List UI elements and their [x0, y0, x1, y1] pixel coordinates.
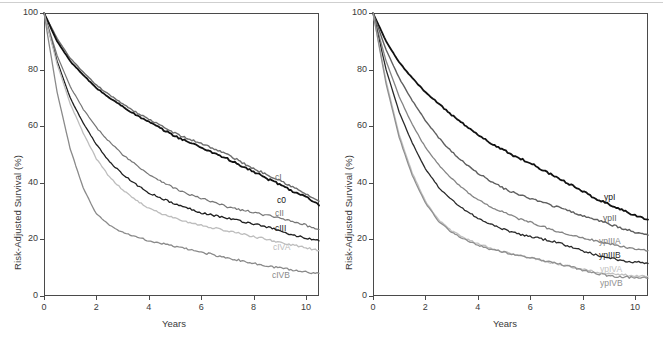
curve-label-cIII: cIII [275, 224, 286, 233]
survival-curve-cIII [44, 13, 319, 241]
y-tick-label: 100 [339, 7, 367, 17]
curve-label-ypIIIB: ypIIIB [599, 251, 621, 260]
x-tick-mark [201, 296, 202, 300]
x-tick-label: 0 [30, 302, 58, 312]
y-tick-mark [40, 70, 44, 71]
x-tick-label: 10 [292, 302, 320, 312]
survival-curve-ypIIIB [373, 13, 648, 263]
y-tick-mark [40, 239, 44, 240]
y-tick-label: 100 [10, 7, 38, 17]
y-tick-mark [40, 126, 44, 127]
y-tick-label: 80 [10, 64, 38, 74]
y-tick-label: 20 [339, 233, 367, 243]
x-tick-mark [373, 296, 374, 300]
x-tick-label: 6 [187, 302, 215, 312]
x-tick-label: 4 [464, 302, 492, 312]
x-tick-label: 8 [569, 302, 597, 312]
x-tick-label: 8 [240, 302, 268, 312]
x-tick-mark [478, 296, 479, 300]
y-tick-label: 0 [10, 290, 38, 300]
x-tick-label: 6 [516, 302, 544, 312]
y-tick-mark [369, 70, 373, 71]
y-tick-label: 20 [10, 233, 38, 243]
curve-label-ypI: ypI [604, 193, 615, 202]
x-tick-mark [254, 296, 255, 300]
survival-curve-cIVB [44, 13, 319, 274]
y-tick-mark [369, 183, 373, 184]
y-tick-mark [40, 183, 44, 184]
y-tick-label: 60 [339, 120, 367, 130]
x-tick-mark [583, 296, 584, 300]
x-tick-label: 4 [135, 302, 163, 312]
x-tick-label: 0 [359, 302, 387, 312]
y-tick-mark [40, 13, 44, 14]
y-tick-label: 60 [10, 120, 38, 130]
x-tick-mark [530, 296, 531, 300]
clinical-stage-panel: Risk-Adjusted Survival (%) Years 0204060… [0, 0, 331, 340]
curve-label-cI: cI [275, 173, 282, 182]
y-tick-label: 40 [339, 177, 367, 187]
x-tick-label: 2 [82, 302, 110, 312]
y-tick-mark [369, 126, 373, 127]
curve-label-ypIVB: ypIVB [600, 279, 623, 288]
x-tick-mark [635, 296, 636, 300]
right-curves-layer [331, 0, 663, 340]
y-tick-mark [369, 239, 373, 240]
x-tick-label: 2 [411, 302, 439, 312]
y-tick-label: 80 [339, 64, 367, 74]
curve-label-ypIIIA: ypIIIA [599, 237, 621, 246]
left-curves-layer [0, 0, 331, 340]
x-tick-label: 10 [621, 302, 649, 312]
yp-stage-panel: Risk-Adjusted Survival (%) Years 0204060… [331, 0, 663, 340]
curve-label-cIVB: cIVB [272, 271, 290, 280]
curve-label-cII: cII [275, 209, 284, 218]
curve-label-ypII: ypII [603, 214, 617, 223]
x-tick-mark [96, 296, 97, 300]
curve-label-cIVA: cIVA [273, 243, 290, 252]
survival-figure: Risk-Adjusted Survival (%) Years 0204060… [0, 0, 663, 340]
x-tick-mark [149, 296, 150, 300]
survival-curve-ypI [373, 13, 648, 219]
x-tick-mark [44, 296, 45, 300]
y-tick-label: 40 [10, 177, 38, 187]
curve-label-c0: c0 [277, 196, 286, 205]
curve-label-ypIVA: ypIVA [600, 265, 622, 274]
x-tick-mark [425, 296, 426, 300]
x-tick-mark [306, 296, 307, 300]
y-tick-mark [369, 13, 373, 14]
y-tick-label: 0 [339, 290, 367, 300]
